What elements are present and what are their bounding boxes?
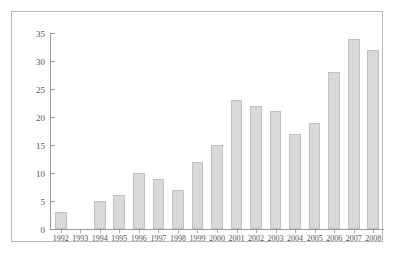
x-tick-mark xyxy=(80,230,81,233)
plot-area xyxy=(51,33,383,229)
x-tick-label: 2005 xyxy=(305,235,325,243)
x-tick-label: 1998 xyxy=(168,235,188,243)
bar xyxy=(94,201,106,229)
y-tick-label: 35 xyxy=(36,29,45,38)
x-tick-label: 1995 xyxy=(110,235,130,243)
x-tick-label: 2004 xyxy=(285,235,305,243)
x-tick-label: 2000 xyxy=(207,235,227,243)
x-tick-label: 2006 xyxy=(324,235,344,243)
x-tick-label: 1994 xyxy=(90,235,110,243)
x-tick-mark xyxy=(178,230,179,233)
x-tick-mark xyxy=(295,230,296,233)
x-tick-label: 1997 xyxy=(149,235,169,243)
bar xyxy=(211,145,223,229)
y-tick-label: 30 xyxy=(36,57,45,66)
bar-chart-figure: 05101520253035 1992199319941995199619971… xyxy=(0,0,394,253)
y-tick-label: 5 xyxy=(41,197,46,206)
x-tick-mark xyxy=(139,230,140,233)
x-tick-mark xyxy=(61,230,62,233)
bar xyxy=(113,195,125,229)
x-tick-mark xyxy=(237,230,238,233)
x-tick-mark xyxy=(256,230,257,233)
bar xyxy=(153,179,165,229)
x-tick-mark xyxy=(158,230,159,233)
x-tick-mark xyxy=(100,230,101,233)
y-tick-label: 10 xyxy=(36,169,45,178)
y-tick-label: 20 xyxy=(36,113,45,122)
x-tick-mark xyxy=(197,230,198,233)
x-tick-label: 2001 xyxy=(227,235,247,243)
x-tick-label: 1993 xyxy=(71,235,91,243)
bar xyxy=(289,134,301,229)
x-tick-mark xyxy=(276,230,277,233)
bar xyxy=(367,50,379,229)
bar xyxy=(55,212,67,229)
x-tick-label: 1996 xyxy=(129,235,149,243)
x-tick-mark xyxy=(119,230,120,233)
bar xyxy=(192,162,204,229)
bar xyxy=(250,106,262,229)
y-tick-label: 0 xyxy=(41,225,46,234)
bar xyxy=(348,39,360,229)
bar xyxy=(309,123,321,229)
x-tick-mark xyxy=(315,230,316,233)
x-tick-label: 2007 xyxy=(344,235,364,243)
x-tick-mark xyxy=(334,230,335,233)
x-tick-mark xyxy=(373,230,374,233)
y-tick-label: 25 xyxy=(36,85,45,94)
bar xyxy=(328,72,340,229)
x-tick-label: 1999 xyxy=(188,235,208,243)
chart-frame: 05101520253035 1992199319941995199619971… xyxy=(11,11,383,242)
x-tick-label: 2002 xyxy=(246,235,266,243)
bar xyxy=(231,100,243,229)
x-tick-label: 2008 xyxy=(363,235,383,243)
x-tick-mark xyxy=(354,230,355,233)
y-tick-label: 15 xyxy=(36,141,45,150)
x-tick-label: 1992 xyxy=(51,235,71,243)
bar xyxy=(133,173,145,229)
y-tick-mark xyxy=(51,229,55,230)
x-tick-mark xyxy=(217,230,218,233)
bar xyxy=(270,111,282,229)
x-tick-label: 2003 xyxy=(266,235,286,243)
bar xyxy=(172,190,184,229)
